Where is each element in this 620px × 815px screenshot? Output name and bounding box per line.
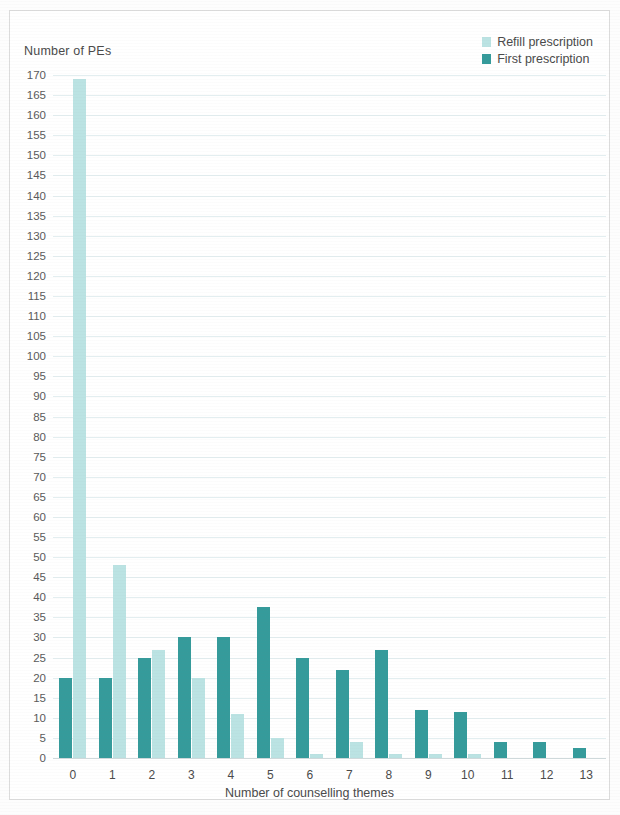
y-axis-tick-label: 165: [27, 89, 46, 101]
y-axis-tick-label: 115: [28, 290, 46, 302]
bar-group: 4: [211, 75, 251, 758]
bar-refill-prescription: [429, 754, 442, 758]
y-axis-tick-label: 135: [27, 210, 46, 222]
chart-frame: Number of PEs Refill prescription First …: [9, 10, 610, 800]
x-axis-tick-label: 10: [461, 768, 474, 782]
y-axis-tick-label: 15: [33, 692, 46, 704]
bar-group: 8: [369, 75, 409, 758]
x-axis-tick-label: 8: [385, 768, 392, 782]
y-axis-tick-label: 100: [27, 350, 46, 362]
y-axis-tick-label: 60: [33, 511, 46, 523]
y-axis-tick-label: 0: [40, 752, 46, 764]
bar-first-prescription: [415, 710, 428, 758]
y-axis-tick-label: 120: [27, 270, 46, 282]
x-axis-tick-label: 3: [188, 768, 195, 782]
bar-first-prescription: [59, 678, 72, 758]
legend-swatch-first-prescription: [482, 54, 491, 64]
y-axis-tick-label: 130: [27, 230, 46, 242]
x-axis-tick-label: 7: [346, 768, 353, 782]
bar-groups: 012345678910111213: [53, 75, 606, 758]
legend-label-first-prescription: First prescription: [497, 52, 589, 66]
bar-first-prescription: [454, 712, 467, 758]
y-axis-tick-label: 30: [33, 631, 46, 643]
plot-area: 1701651601551501451401351301251201151101…: [53, 75, 606, 758]
y-axis-tick-label: 155: [27, 129, 46, 141]
y-axis-tick-label: 125: [27, 250, 46, 262]
y-axis-tick-label: 150: [27, 149, 46, 161]
y-axis-tick-label: 35: [33, 611, 46, 623]
bar-refill-prescription: [231, 714, 244, 758]
y-axis-tick-label: 25: [33, 652, 46, 664]
bar-first-prescription: [296, 658, 309, 758]
chart-legend: Refill prescription First prescription: [482, 35, 593, 66]
y-axis-tick-label: 80: [33, 431, 46, 443]
bar-group: 10: [448, 75, 488, 758]
y-axis-tick-label: 65: [33, 491, 46, 503]
bar-refill-prescription: [73, 79, 86, 758]
bar-refill-prescription: [310, 754, 323, 758]
legend-item-first-prescription: First prescription: [482, 52, 593, 66]
bar-refill-prescription: [192, 678, 205, 758]
bar-first-prescription: [494, 742, 507, 758]
y-axis-tick-label: 45: [33, 571, 46, 583]
bar-first-prescription: [178, 637, 191, 758]
bar-group: 11: [488, 75, 528, 758]
bar-first-prescription: [217, 637, 230, 758]
legend-label-refill-prescription: Refill prescription: [497, 35, 593, 49]
y-axis-tick-label: 10: [33, 712, 46, 724]
legend-item-refill-prescription: Refill prescription: [482, 35, 593, 49]
bar-group: 12: [527, 75, 567, 758]
y-axis-tick-label: 50: [33, 551, 46, 563]
bar-refill-prescription: [152, 650, 165, 758]
bar-group: 2: [132, 75, 172, 758]
y-axis-tick-label: 170: [27, 69, 46, 81]
y-axis-title: Number of PEs: [24, 44, 111, 58]
bar-refill-prescription: [350, 742, 363, 758]
bar-first-prescription: [138, 658, 151, 758]
bar-first-prescription: [99, 678, 112, 758]
y-axis-tick-label: 75: [33, 451, 46, 463]
bar-refill-prescription: [271, 738, 284, 758]
bar-first-prescription: [375, 650, 388, 758]
x-axis-tick-label: 0: [69, 768, 76, 782]
bar-first-prescription: [257, 607, 270, 758]
y-axis-tick-label: 105: [27, 330, 46, 342]
x-axis-tick-label: 13: [580, 768, 593, 782]
y-axis-tick-label: 160: [27, 109, 46, 121]
x-axis-tick-label: 2: [148, 768, 155, 782]
gridline: 0: [53, 758, 606, 759]
bar-first-prescription: [336, 670, 349, 758]
y-axis-tick-label: 85: [33, 411, 46, 423]
y-axis-tick-label: 55: [33, 531, 46, 543]
y-axis-tick-label: 20: [33, 672, 46, 684]
y-axis-tick-label: 145: [27, 169, 46, 181]
bar-first-prescription: [573, 748, 586, 758]
x-axis-tick-label: 12: [540, 768, 553, 782]
bar-group: 9: [409, 75, 449, 758]
x-axis-tick-label: 9: [425, 768, 432, 782]
bar-group: 0: [53, 75, 93, 758]
bar-group: 13: [567, 75, 607, 758]
x-axis-title: Number of counselling themes: [10, 786, 609, 800]
bar-group: 6: [290, 75, 330, 758]
y-axis-tick-label: 110: [28, 310, 46, 322]
bar-refill-prescription: [468, 754, 481, 758]
y-axis-tick-label: 70: [33, 471, 46, 483]
x-axis-tick-label: 1: [109, 768, 116, 782]
bar-refill-prescription: [389, 754, 402, 758]
x-axis-tick-label: 11: [501, 768, 513, 782]
legend-swatch-refill-prescription: [482, 37, 491, 47]
y-axis-tick-label: 40: [33, 591, 46, 603]
x-axis-tick-label: 6: [306, 768, 313, 782]
y-axis-tick-label: 140: [27, 190, 46, 202]
y-axis-tick-label: 90: [33, 390, 46, 402]
y-axis-tick-label: 95: [33, 370, 46, 382]
bar-group: 7: [330, 75, 370, 758]
bar-refill-prescription: [113, 565, 126, 758]
bar-first-prescription: [533, 742, 546, 758]
x-axis-tick-label: 4: [227, 768, 234, 782]
bar-group: 3: [172, 75, 212, 758]
y-axis-tick-label: 5: [40, 732, 46, 744]
bar-group: 5: [251, 75, 291, 758]
bar-group: 1: [93, 75, 133, 758]
